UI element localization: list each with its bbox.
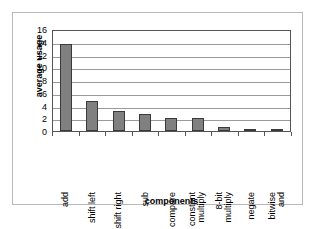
bar[interactable] <box>165 118 177 131</box>
bar-slot <box>264 31 290 131</box>
x-tick-mark <box>132 132 133 136</box>
bar[interactable] <box>86 101 98 131</box>
bar[interactable] <box>113 111 125 131</box>
x-tick-mark <box>211 132 212 136</box>
x-tick-mark <box>79 132 80 136</box>
x-label-slot: shift right <box>105 137 132 197</box>
bar[interactable] <box>192 118 204 131</box>
x-label-slot: 8-bitmultiply <box>211 137 238 197</box>
y-axis-tick-labels: 0246810121416 <box>27 27 47 145</box>
y-tick-label: 4 <box>42 102 47 111</box>
y-tick-label: 6 <box>42 89 47 98</box>
y-tick-label: 2 <box>42 115 47 124</box>
x-tick-mark <box>238 132 239 136</box>
x-label-slot: compare <box>158 137 185 197</box>
x-label-slot: sub <box>132 137 159 197</box>
x-tick-mark <box>52 132 53 136</box>
x-tick-mark <box>185 132 186 136</box>
bar[interactable] <box>218 127 230 131</box>
y-tick-label: 14 <box>37 38 47 47</box>
bar[interactable] <box>139 114 151 131</box>
bar[interactable] <box>271 129 283 131</box>
y-tick-label: 12 <box>37 51 47 60</box>
x-tick-mark <box>264 132 265 136</box>
x-tick-mark <box>158 132 159 136</box>
x-label-slot: shift left <box>79 137 106 197</box>
y-tick-label: 10 <box>37 64 47 73</box>
bar-slot <box>53 31 79 131</box>
bar-slot <box>132 31 158 131</box>
y-tick-label: 16 <box>37 26 47 35</box>
bar-slot <box>158 31 184 131</box>
bar-slot <box>211 31 237 131</box>
x-label-slot: add <box>52 137 79 197</box>
bar[interactable] <box>244 129 256 131</box>
x-label-slot: bitwiseand <box>265 137 292 197</box>
y-tick-label: 8 <box>42 77 47 86</box>
x-axis-tick-marks <box>52 132 291 136</box>
bar-slot <box>185 31 211 131</box>
plot-area <box>52 30 291 132</box>
chart-frame: average usage 0246810121416 addshift lef… <box>12 12 303 205</box>
x-tick-mark <box>291 132 292 136</box>
x-axis-title: components <box>52 196 291 206</box>
x-tick-mark <box>105 132 106 136</box>
bar-slot <box>106 31 132 131</box>
y-tick-label: 0 <box>42 128 47 137</box>
bar-series <box>53 31 290 131</box>
bar-slot <box>79 31 105 131</box>
bar[interactable] <box>60 44 72 131</box>
x-label-slot: constantmultiply <box>185 137 212 197</box>
x-axis-tick-labels: addshift leftshift rightsubcompareconsta… <box>52 137 291 197</box>
x-label-slot: negate <box>238 137 265 197</box>
bar-slot <box>237 31 263 131</box>
